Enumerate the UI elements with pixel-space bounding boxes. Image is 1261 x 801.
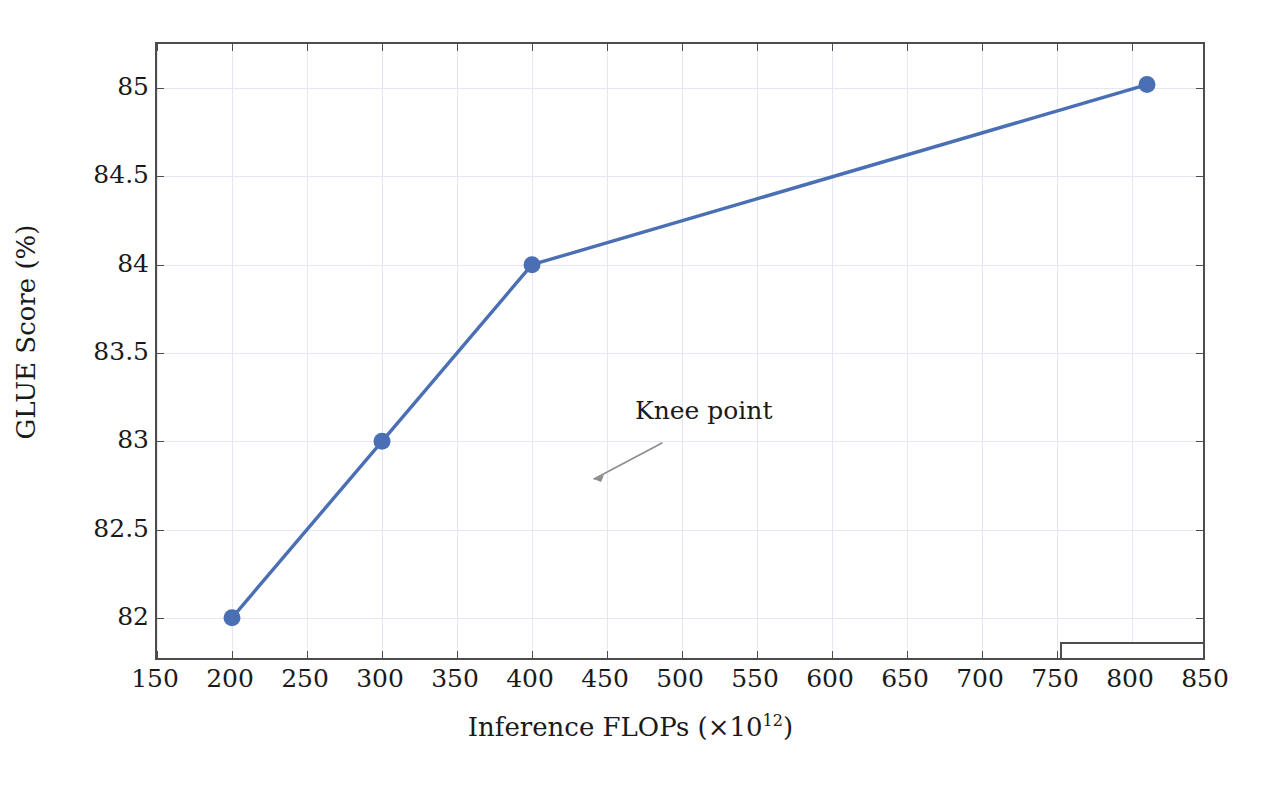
x-tick-label: 750: [1031, 666, 1079, 691]
x-tick-label: 200: [206, 666, 254, 691]
y-tick-label: 82: [117, 603, 149, 628]
x-tick-label: 550: [731, 666, 779, 691]
x-tick-label: 450: [581, 666, 629, 691]
x-axis-title-base: Inference FLOPs (×10: [468, 712, 763, 742]
y-tick-label: 84: [117, 250, 149, 275]
series-markers-model-variants: [224, 76, 1156, 626]
x-axis-title-exponent: 12: [763, 711, 784, 730]
data-point-marker: [374, 433, 391, 450]
x-tick-label: 250: [281, 666, 329, 691]
x-tick-label: 500: [656, 666, 704, 691]
x-axis-title: Inference FLOPs (×1012): [0, 712, 1261, 742]
knee-point-arrow: [582, 429, 682, 489]
data-point-marker: [524, 256, 541, 273]
plot-area: Knee point Model Variants: [155, 42, 1205, 660]
chart-figure: Knee point Model Variants 15020025030035…: [0, 0, 1261, 801]
y-tick-label: 82.5: [93, 515, 149, 540]
x-tick-label: 600: [806, 666, 854, 691]
knee-point-label: Knee point: [635, 396, 773, 425]
x-tick-label: 700: [956, 666, 1004, 691]
data-point-marker: [1139, 76, 1156, 93]
y-axis-title: GLUE Score (%): [11, 92, 41, 572]
x-tick-label: 650: [881, 666, 929, 691]
x-tick-label: 300: [356, 666, 404, 691]
y-tick-label: 85: [117, 74, 149, 99]
chart-legend: Model Variants: [1060, 642, 1205, 660]
x-tick-label: 400: [506, 666, 554, 691]
y-tick-label: 83.5: [93, 339, 149, 364]
x-tick-label: 150: [131, 666, 179, 691]
series-line-model-variants: [232, 85, 1147, 618]
x-tick-label: 350: [431, 666, 479, 691]
x-tick-label: 850: [1181, 666, 1229, 691]
legend-label-model-variants: Model Variants: [1144, 653, 1205, 661]
y-tick-label: 83: [117, 427, 149, 452]
x-tick-label: 800: [1106, 666, 1154, 691]
x-axis-title-tail: ): [783, 712, 793, 742]
y-tick-label: 84.5: [93, 162, 149, 187]
data-point-marker: [224, 609, 241, 626]
legend-line-sample: [1072, 657, 1136, 660]
data-series-layer: [157, 44, 1205, 660]
